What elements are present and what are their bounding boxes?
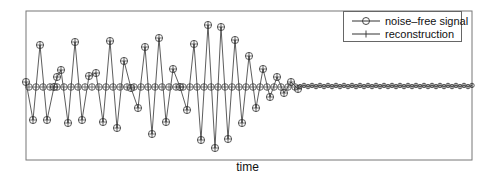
circle-marker-icon: [352, 14, 382, 28]
legend-item-noise-free-signal: noise–free signal: [344, 14, 461, 28]
plus-marker-icon: [352, 27, 382, 41]
x-axis-label: time: [0, 160, 495, 174]
legend-label: reconstruction: [385, 27, 454, 41]
legend-label: noise–free signal: [385, 14, 468, 28]
legend-item-reconstruction: reconstruction: [344, 27, 461, 41]
legend: noise–free signal reconstruction: [343, 11, 462, 42]
